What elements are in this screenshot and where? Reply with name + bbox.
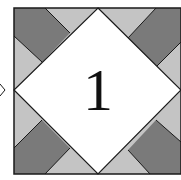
neighbor-edge-line: [0, 84, 5, 90]
quilt-block-diagram: 1: [0, 0, 181, 180]
neighbor-edge-line: [0, 90, 5, 96]
block-number-label: 1: [58, 52, 138, 128]
